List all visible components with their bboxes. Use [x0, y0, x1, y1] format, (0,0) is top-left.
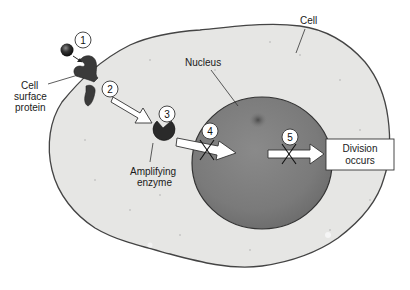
step-3-badge: 3: [159, 106, 175, 122]
enzyme-label-line1: Amplifying: [130, 166, 176, 177]
protein-label-line3: protein: [15, 102, 46, 113]
step-1-badge: 1: [75, 32, 91, 48]
nucleus-label: Nucleus: [185, 57, 221, 68]
signal-molecule: [61, 44, 74, 57]
svg-text:4: 4: [207, 126, 213, 137]
protein-label-line2: surface: [14, 91, 47, 102]
svg-text:1: 1: [80, 35, 86, 46]
nucleolus: [249, 112, 267, 128]
cell-label: Cell: [300, 15, 317, 26]
cell-signaling-diagram: Cell Nucleus Cell surface protein 1 2 Am…: [0, 0, 410, 290]
svg-text:5: 5: [287, 132, 293, 143]
step-4-badge: 4: [202, 123, 218, 139]
division-label-line2: occurs: [345, 155, 374, 166]
step-5-badge: 5: [282, 129, 298, 145]
protein-label-line1: Cell: [21, 80, 38, 91]
svg-text:2: 2: [107, 84, 113, 95]
vesicle: [148, 243, 153, 248]
step-2-badge: 2: [102, 81, 118, 97]
vesicle: [325, 232, 331, 238]
protein-leader-line: [48, 75, 78, 84]
svg-text:3: 3: [164, 109, 170, 120]
division-occurs-box: Division occurs: [326, 139, 394, 170]
enzyme-label-line2: enzyme: [137, 177, 172, 188]
division-label-line1: Division: [342, 143, 377, 154]
